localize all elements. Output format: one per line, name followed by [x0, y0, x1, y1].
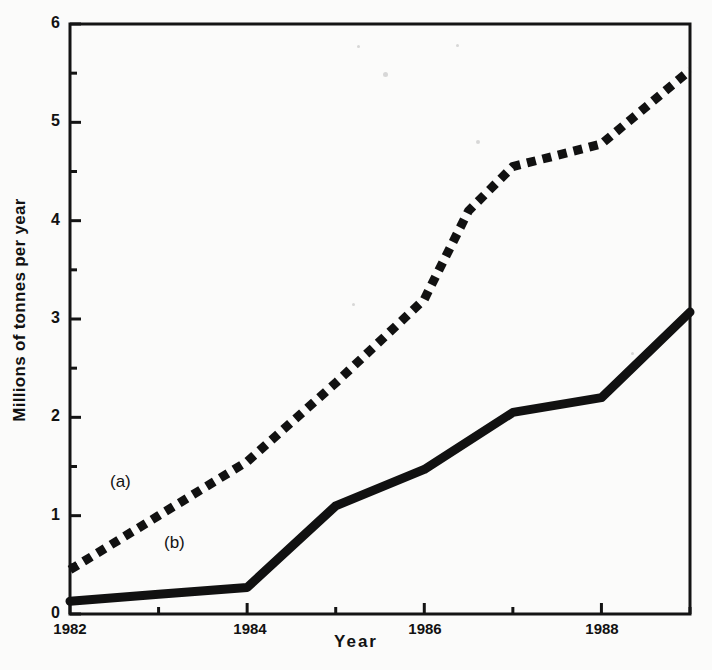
x-axis-ticks — [70, 603, 690, 614]
series-a-line — [70, 70, 690, 570]
scan-speck — [352, 303, 355, 306]
scan-speck — [631, 352, 634, 355]
series-b-line — [70, 312, 690, 601]
scan-speck — [456, 44, 459, 47]
scan-speck — [357, 45, 360, 48]
chart-figure: Millions of tonnes per year Year 6 5 4 3… — [0, 0, 712, 670]
y-axis-ticks — [70, 24, 81, 614]
scan-speck — [476, 140, 480, 144]
scan-speck — [383, 72, 388, 77]
plot-area — [0, 0, 712, 670]
axis-frame — [70, 24, 690, 614]
